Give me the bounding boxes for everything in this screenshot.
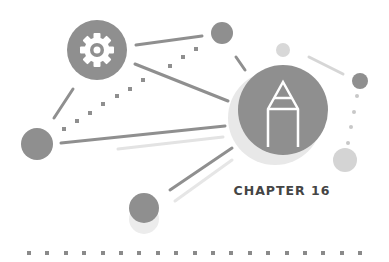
connector-line: [135, 64, 228, 101]
dotted-divider: [27, 251, 362, 255]
node-left: [21, 128, 53, 160]
node-top: [211, 22, 233, 44]
gear-node: [67, 20, 127, 80]
node-right-small: [352, 73, 368, 89]
connector-line-light: [118, 137, 223, 149]
gear-icon: [80, 33, 114, 67]
connector-line: [54, 89, 73, 118]
connector-line: [136, 36, 202, 45]
dotted-connector-right: [346, 94, 359, 145]
pencil-node: [238, 65, 328, 155]
node-right-light: [333, 148, 357, 172]
chapter-heading: CHAPTER 16: [232, 183, 332, 198]
connector-line: [236, 57, 245, 70]
chapter-illustration: [0, 0, 389, 262]
node-bottom: [129, 193, 159, 223]
connector-line-light: [309, 57, 343, 74]
node-top-light: [276, 43, 290, 57]
